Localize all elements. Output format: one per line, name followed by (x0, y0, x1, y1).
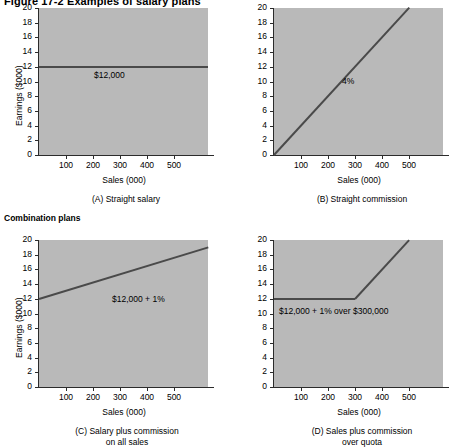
y-tick-label: 6 (262, 337, 267, 347)
x-tick-label: 500 (167, 160, 181, 170)
x-tick-label: 100 (294, 160, 308, 170)
x-tick-label: 400 (375, 392, 389, 402)
plot-area-a (39, 8, 208, 155)
y-tick-label: 2 (262, 134, 267, 144)
y-tick-label: 14 (258, 278, 267, 288)
x-tick-label: 300 (113, 392, 127, 402)
caption-b: (B) Straight commission (274, 194, 450, 205)
x-axis-c (38, 387, 214, 388)
x-tick-label: 300 (113, 160, 127, 170)
data-label-d: $12,000 + 1% over $300,000 (279, 306, 388, 316)
y-tick-label: 6 (27, 337, 32, 347)
y-tick-label: 8 (27, 90, 32, 100)
x-tick-label: 100 (59, 392, 73, 402)
plot-area-c (39, 240, 208, 387)
y-tick-label: 14 (258, 46, 267, 56)
series-line-d-flat (274, 298, 355, 300)
y-tick-label: 18 (23, 17, 32, 27)
x-tick-label: 400 (140, 392, 154, 402)
x-tick-label: 100 (294, 392, 308, 402)
data-label-a: $12,000 (94, 70, 125, 80)
y-tick-label: 8 (262, 322, 267, 332)
x-tick-label: 500 (402, 392, 416, 402)
x-axis-label-d: Sales (000) (314, 407, 404, 417)
y-tick-label: 4 (262, 120, 267, 130)
data-label-c: $12,000 + 1% (112, 294, 165, 304)
y-tick-label: 16 (23, 263, 32, 273)
y-tick-label: 10 (258, 76, 267, 86)
chart-panel-d: 20 18 16 14 12 10 8 6 4 2 0 100 200 300 … (274, 240, 450, 440)
y-tick-label: 6 (262, 105, 267, 115)
x-tick-label: 200 (86, 160, 100, 170)
x-tick-label: 500 (402, 160, 416, 170)
y-tick-label: 18 (258, 17, 267, 27)
x-axis-label-c: Sales (000) (79, 407, 169, 417)
figure-title: Figure 17-2 Examples of salary plans (4, 0, 201, 7)
chart-panel-a: 20 18 16 14 12 10 8 6 4 2 0 100 200 300 … (39, 8, 215, 208)
x-tick-label: 100 (59, 160, 73, 170)
plot-area-b (274, 8, 443, 155)
y-tick-label: 20 (258, 2, 267, 12)
y-tick-label: 12 (258, 61, 267, 71)
y-tick-label: 18 (258, 249, 267, 259)
y-tick-label: 12 (258, 293, 267, 303)
y-tick-label: 8 (27, 322, 32, 332)
caption-a: (A) Straight salary (46, 194, 206, 205)
y-tick-label: 0 (27, 149, 32, 159)
y-tick-label: 2 (262, 366, 267, 376)
y-tick-label: 16 (258, 31, 267, 41)
y-tick-label: 4 (27, 120, 32, 130)
x-tick-label: 400 (140, 160, 154, 170)
x-tick-label: 200 (86, 392, 100, 402)
y-tick-label: 4 (262, 352, 267, 362)
x-tick-label: 300 (348, 160, 362, 170)
chart-panel-b: 20 18 16 14 12 10 8 6 4 2 0 100 200 300 … (274, 8, 450, 208)
y-tick-label: 2 (27, 134, 32, 144)
y-tick-label: 8 (262, 90, 267, 100)
y-tick-label: 0 (27, 381, 32, 391)
y-tick-label: 20 (23, 234, 32, 244)
x-tick-label: 400 (375, 160, 389, 170)
y-tick-label: 16 (23, 31, 32, 41)
x-axis-d (273, 387, 449, 388)
x-axis-label-b: Sales (000) (314, 175, 404, 185)
x-tick-label: 500 (167, 392, 181, 402)
x-tick-label: 300 (348, 392, 362, 402)
section-label-combination-plans: Combination plans (4, 213, 81, 223)
data-label-b: 4% (342, 76, 354, 86)
y-tick-label: 14 (23, 46, 32, 56)
caption-d: (D) Sales plus commission over quota (272, 426, 452, 448)
y-tick-label: 20 (258, 234, 267, 244)
x-tick-label: 200 (321, 160, 335, 170)
caption-c: (C) Salary plus commission on all sales (37, 426, 217, 448)
y-axis-label-c: Earnings ($000) (14, 298, 24, 358)
y-tick-label: 0 (262, 381, 267, 391)
y-tick-label: 0 (262, 149, 267, 159)
y-tick-label: 16 (258, 263, 267, 273)
y-axis-label-a: Earnings ($000) (14, 66, 24, 126)
chart-panel-c: 20 18 16 14 12 10 8 6 4 2 0 100 200 300 … (39, 240, 215, 440)
y-tick-label: 4 (27, 352, 32, 362)
y-tick-label: 14 (23, 278, 32, 288)
y-tick-label: 2 (27, 366, 32, 376)
x-tick-label: 200 (321, 392, 335, 402)
y-tick-label: 20 (23, 2, 32, 12)
y-tick-label: 10 (258, 308, 267, 318)
series-line-a (39, 66, 208, 68)
y-tick-label: 18 (23, 249, 32, 259)
x-axis-a (38, 155, 214, 156)
x-axis-label-a: Sales (000) (79, 175, 169, 185)
y-tick-label: 6 (27, 105, 32, 115)
x-axis-b (273, 155, 449, 156)
